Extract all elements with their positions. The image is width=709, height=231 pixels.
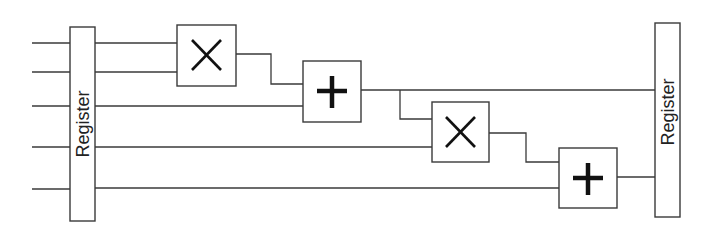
register-right-label: Register bbox=[658, 78, 678, 145]
wire-mult2-to-adder2 bbox=[489, 133, 559, 162]
register-left-label: Register bbox=[73, 90, 93, 157]
wire-adder1-to-mult2 bbox=[400, 90, 432, 119]
multiplier-2 bbox=[432, 102, 489, 162]
adder-2 bbox=[559, 148, 617, 208]
multiplier-1 bbox=[177, 25, 236, 86]
input-wires bbox=[32, 43, 70, 189]
register-left: Register bbox=[70, 27, 95, 221]
adder-1 bbox=[303, 61, 361, 122]
register-right: Register bbox=[655, 23, 680, 217]
datapath-diagram: Register Register bbox=[0, 0, 709, 231]
wire-mult1-to-adder1 bbox=[236, 54, 303, 84]
